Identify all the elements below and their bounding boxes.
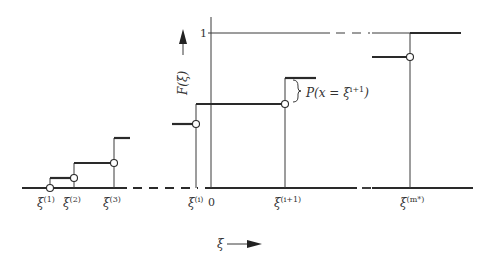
svg-text:F(ξ): F(ξ) [176, 70, 190, 96]
jump-annotation: P(x = ξi+1) [305, 85, 369, 100]
open-point-2 [71, 175, 78, 182]
y-axis-label: F(ξ) [176, 70, 190, 96]
open-point-1 [47, 185, 54, 192]
tick-xi-3: ξ(3) [103, 195, 121, 210]
tick-xi-i: ξ(i) [188, 195, 203, 210]
tick-xi-1: ξ(1) [37, 195, 55, 210]
up-arrow-icon [179, 29, 187, 44]
open-point-i-plus-1 [282, 101, 289, 108]
x-axis-label: ξ [217, 237, 225, 251]
tick-xi-2: ξ(2) [63, 195, 81, 210]
right-arrow-icon [247, 240, 262, 248]
cdf-diagram: 1 P(x = ξi+1) F(ξ) ξ(1) ξ(2) ξ(3) ξ(i) 0… [0, 0, 487, 263]
y-tick-one: 1 [200, 27, 207, 40]
tick-xi-i-plus-1: ξ(i+1) [274, 195, 301, 210]
tick-origin: 0 [208, 196, 215, 209]
open-point-i [193, 121, 200, 128]
open-point-3 [111, 160, 118, 167]
tick-xi-m: ξ(m*) [400, 195, 424, 210]
brace-icon [293, 80, 301, 102]
open-point-m [407, 54, 414, 61]
